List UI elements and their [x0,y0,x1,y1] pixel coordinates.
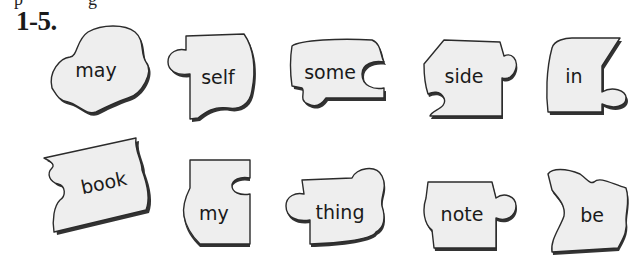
piece-word: thing [316,201,365,223]
piece-word: self [201,66,236,88]
piece-word: my [199,202,229,224]
puzzle-piece-book: book [44,138,151,235]
piece-word: side [445,65,484,87]
puzzle-piece-self: self [168,34,256,122]
puzzle-piece-some: some [291,39,387,108]
puzzle-piece-may: may [51,26,150,116]
piece-word: may [75,59,116,81]
puzzle-pieces-canvas: may self some side in book my thing [0,0,643,267]
puzzle-piece-in: in [547,38,628,115]
piece-word: be [580,204,604,226]
puzzle-piece-side: side [424,40,517,119]
piece-word: in [565,65,582,87]
piece-word: note [441,203,484,225]
puzzle-piece-thing: thing [286,169,385,247]
puzzle-piece-note: note [424,182,517,251]
puzzle-piece-my: my [183,160,250,247]
puzzle-piece-be: be [548,170,629,256]
piece-word: some [304,61,356,83]
